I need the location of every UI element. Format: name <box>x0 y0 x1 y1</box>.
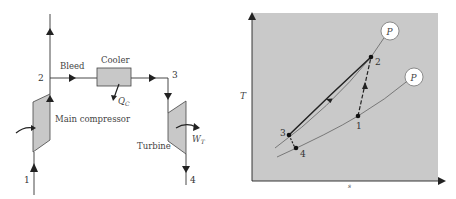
flow-arrow-exhaust <box>182 166 190 173</box>
low-pressure-label: P <box>410 73 418 83</box>
flow-arrow-inlet <box>30 163 38 172</box>
bleed-label: Bleed <box>60 61 85 71</box>
ts-state-3-label: 3 <box>280 128 286 138</box>
main-compressor-label: Main compressor <box>55 114 131 124</box>
state-point-2 <box>369 55 374 60</box>
state-point-4 <box>294 146 299 151</box>
work-arrow-head <box>193 123 200 131</box>
state-3-label: 3 <box>172 70 178 80</box>
x-axis-label: s <box>348 182 351 189</box>
x-axis-arrow-icon <box>438 177 446 185</box>
flow-arrow-turbine-in <box>164 93 172 100</box>
flow-arrow-top <box>46 28 54 35</box>
high-pressure-label: P <box>386 27 394 37</box>
state-4-label: 4 <box>190 175 196 185</box>
flow-arrow-cooler-out <box>149 74 156 82</box>
cooler-label: Cooler <box>101 55 130 65</box>
turbine-label: Turbine <box>137 141 171 151</box>
heat-out-label: QC <box>118 96 130 107</box>
cooler-icon <box>97 68 131 86</box>
state-point-1 <box>356 114 361 119</box>
heat-arrow-head <box>111 95 117 101</box>
ts-state-2-label: 2 <box>375 57 381 67</box>
ts-diagram: T s 1 2 3 4 P P <box>240 12 446 189</box>
main-compressor-icon <box>33 94 50 152</box>
y-axis-label: T <box>240 91 247 101</box>
cycle-schematic: Bleed Cooler Main compressor Turbine QC … <box>16 14 206 195</box>
ts-state-4-label: 4 <box>300 149 306 159</box>
ts-state-1-label: 1 <box>356 121 362 131</box>
state-2-label: 2 <box>38 73 44 83</box>
work-out-label: WT <box>192 134 206 145</box>
state-1-label: 1 <box>24 175 30 185</box>
state-point-3 <box>287 133 292 138</box>
flow-arrow-bleed <box>69 74 76 82</box>
